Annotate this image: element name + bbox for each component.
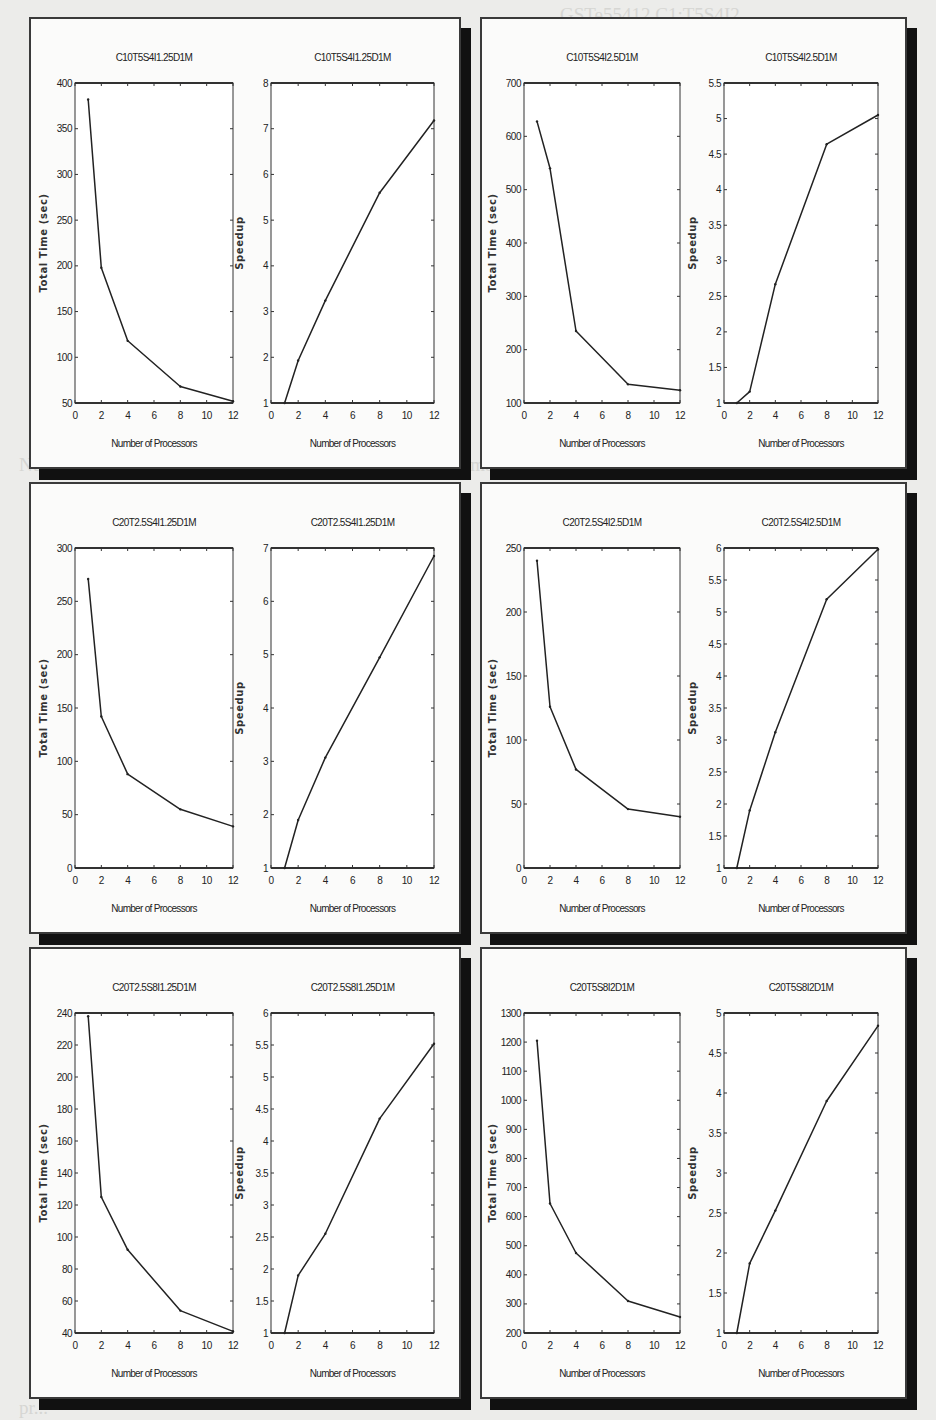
x-axis-label: Number of Processors (310, 903, 396, 914)
x-tick-label: 4 (573, 875, 579, 886)
x-tick-label: 4 (573, 1340, 579, 1351)
y-tick-label: 200 (506, 607, 522, 618)
x-tick-label: 0 (268, 410, 274, 421)
y-tick-label: 600 (506, 131, 522, 142)
y-tick-label: 100 (506, 735, 522, 746)
figure-panel-3: C20T2.5S4I1.25D1M02468101205010015020025… (29, 482, 461, 934)
x-axis-label: Number of Processors (310, 1368, 396, 1379)
plot-title: C20T2.5S8I1.25D1M (311, 982, 395, 993)
data-point-marker (100, 1196, 102, 1198)
y-tick-label: 180 (57, 1104, 73, 1115)
x-tick-label: 8 (625, 1340, 631, 1351)
data-point-marker (378, 1117, 380, 1119)
plot-area (75, 1013, 233, 1333)
x-tick-label: 10 (202, 875, 213, 886)
x-tick-label: 12 (873, 1340, 884, 1351)
y-tick-label: 120 (57, 1200, 73, 1211)
plot-title: C20T2.5S4I1.25D1M (311, 517, 395, 528)
x-tick-label: 0 (721, 1340, 727, 1351)
total-time-plot: C20T2.5S4I2.5D1M024681012050100150200250… (487, 517, 686, 914)
y-tick-label: 4.5 (709, 149, 722, 160)
data-point-marker (748, 1262, 750, 1264)
x-tick-label: 12 (675, 1340, 686, 1351)
y-tick-label: 300 (506, 1298, 522, 1309)
x-tick-label: 8 (377, 875, 383, 886)
data-point-marker (627, 808, 629, 810)
x-axis-label: Number of Processors (559, 1368, 645, 1379)
y-tick-label: 4.5 (709, 1048, 722, 1059)
y-tick-label: 7 (263, 123, 269, 134)
x-tick-label: 10 (847, 410, 858, 421)
y-axis-label: Speedup (234, 216, 245, 270)
y-tick-label: 5.5 (709, 575, 722, 586)
y-tick-label: 5 (716, 113, 722, 124)
total-time-plot: C20T2.5S8I1.25D1M02468101240608010012014… (38, 982, 239, 1379)
data-point-marker (748, 809, 750, 811)
y-tick-label: 3 (716, 255, 722, 266)
data-point-marker (283, 402, 285, 404)
data-point-marker (126, 1249, 128, 1251)
x-tick-label: 12 (429, 410, 440, 421)
data-point-marker (100, 715, 102, 717)
data-point-marker (100, 266, 102, 268)
y-tick-label: 1 (716, 863, 722, 874)
speedup-plot: C20T2.5S8I1.25D1M02468101211.522.533.544… (234, 982, 440, 1379)
y-tick-label: 6 (263, 596, 269, 607)
y-tick-label: 2 (716, 326, 722, 337)
plot-title: C10T5S4I1.25D1M (116, 52, 193, 63)
y-tick-label: 6 (263, 1008, 269, 1019)
y-tick-label: 1000 (501, 1095, 522, 1106)
x-tick-label: 2 (747, 875, 753, 886)
data-point-marker (536, 560, 538, 562)
x-tick-label: 12 (429, 875, 440, 886)
x-tick-label: 6 (798, 875, 804, 886)
data-point-marker (283, 867, 285, 869)
plot-title: C20T2.5S4I1.25D1M (112, 517, 196, 528)
x-tick-label: 2 (547, 410, 553, 421)
y-axis-label: Total Time (sec) (38, 1123, 49, 1222)
y-tick-label: 4 (263, 1136, 269, 1147)
x-tick-label: 8 (824, 410, 830, 421)
y-tick-label: 700 (506, 1182, 522, 1193)
x-tick-label: 12 (429, 1340, 440, 1351)
data-point-marker (87, 98, 89, 100)
speedup-plot: C20T2.5S4I1.25D1M0246810121234567Number … (234, 517, 440, 914)
plot-title: C10T5S4I2.5D1M (765, 52, 837, 63)
data-point-marker (179, 1309, 181, 1311)
data-point-marker (575, 768, 577, 770)
y-tick-label: 3 (263, 1200, 269, 1211)
y-tick-label: 140 (57, 1168, 73, 1179)
data-point-marker (736, 1332, 738, 1334)
data-point-marker (324, 299, 326, 301)
y-tick-label: 150 (57, 703, 73, 714)
data-point-marker (179, 808, 181, 810)
data-point-marker (87, 578, 89, 580)
y-tick-label: 600 (506, 1211, 522, 1222)
data-point-marker (297, 819, 299, 821)
data-point-marker (549, 706, 551, 708)
y-tick-label: 2 (263, 809, 269, 820)
total-time-plot: C10T5S4I1.25D1M0246810125010015020025030… (38, 52, 239, 449)
data-point-marker (825, 598, 827, 600)
y-tick-label: 160 (57, 1136, 73, 1147)
x-axis-label: Number of Processors (559, 438, 645, 449)
data-point-marker (87, 1015, 89, 1017)
y-tick-label: 6 (263, 169, 269, 180)
y-tick-label: 50 (62, 398, 73, 409)
plot-area (724, 83, 878, 403)
y-tick-label: 2.5 (709, 291, 722, 302)
x-tick-label: 8 (178, 875, 184, 886)
y-tick-label: 6 (716, 543, 722, 554)
data-point-marker (774, 283, 776, 285)
speedup-plot: C20T5S8I2D1M02468101211.522.533.544.55Nu… (687, 982, 884, 1379)
y-tick-label: 5 (716, 607, 722, 618)
y-tick-label: 250 (57, 215, 73, 226)
x-tick-label: 6 (151, 1340, 157, 1351)
y-tick-label: 100 (57, 352, 73, 363)
data-point-marker (774, 731, 776, 733)
data-point-marker (627, 1300, 629, 1302)
data-point-marker (575, 330, 577, 332)
x-tick-label: 0 (521, 875, 527, 886)
figure-panel-1: C10T5S4I1.25D1M0246810125010015020025030… (29, 17, 461, 469)
y-tick-label: 1 (263, 863, 269, 874)
